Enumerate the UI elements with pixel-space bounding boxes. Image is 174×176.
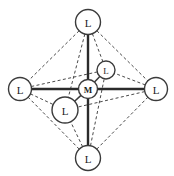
ligand-node-top: L	[76, 10, 101, 35]
octahedron-edge-right-back	[114, 73, 145, 85]
ligand-node-back: L	[97, 61, 115, 79]
metal-label-metal: M	[84, 85, 93, 95]
octahedron-edge-bottom-front	[71, 122, 83, 147]
octahedron-edge-left-front	[30, 94, 53, 105]
octahedral-complex-diagram: LLLLLLM	[0, 0, 174, 176]
ligand-label-left: L	[17, 84, 24, 96]
octahedron-edge-top-back	[92, 34, 102, 62]
metal-center-metal: M	[79, 80, 98, 99]
bond-metal-front	[75, 95, 81, 101]
ligand-label-top: L	[85, 17, 92, 29]
ligand-label-back: L	[103, 66, 109, 76]
ligand-node-bottom: L	[76, 146, 101, 171]
octahedron-edge-bottom-right	[97, 97, 148, 149]
octahedron-edge-top-left	[28, 31, 79, 81]
ligand-node-front: L	[52, 97, 78, 123]
ligand-label-right: L	[153, 84, 160, 96]
ligand-node-left: L	[9, 78, 32, 101]
ligand-label-front: L	[62, 105, 69, 117]
ligand-label-bottom: L	[85, 153, 92, 165]
bond-metal-back	[95, 77, 100, 83]
octahedron-figure: LLLLLLM	[0, 0, 174, 176]
ligand-node-right: L	[145, 78, 168, 101]
